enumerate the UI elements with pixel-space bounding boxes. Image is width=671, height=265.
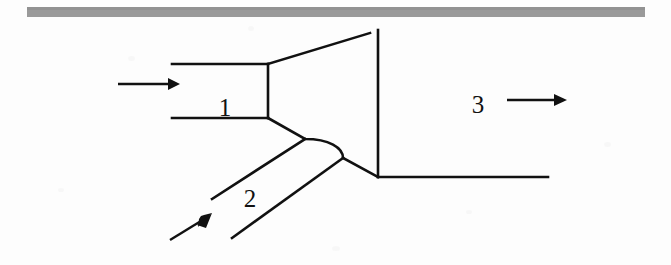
horizontal-rule-shade — [27, 7, 645, 10]
channel2-upper-wall — [212, 139, 305, 199]
flow-arrow-channel-2 — [170, 213, 212, 240]
diffuser-upper-wall — [268, 33, 370, 64]
flow-arrow-channel-1 — [118, 78, 180, 90]
figure-canvas: 1 2 3 — [0, 0, 671, 265]
label-channel-3: 3 — [472, 91, 485, 118]
junction-lower-edge — [343, 158, 378, 177]
label-channel-2: 2 — [244, 185, 257, 212]
duct-junction-diagram: 1 2 3 — [0, 0, 671, 265]
label-channel-1: 1 — [219, 94, 232, 121]
flow-arrow-channel-3 — [507, 94, 567, 106]
